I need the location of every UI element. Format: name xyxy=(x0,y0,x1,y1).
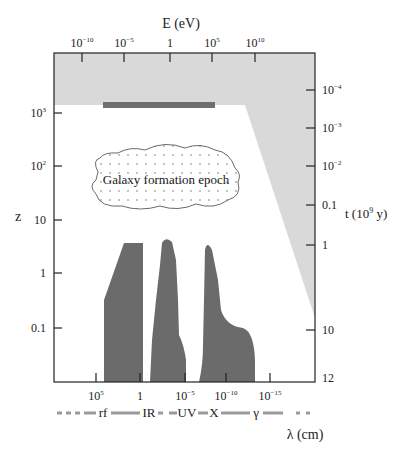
left-axis-title: z xyxy=(15,209,21,224)
window-optical xyxy=(150,239,186,382)
recombination-bar xyxy=(103,102,215,108)
bottom-tick-label: 10−15 xyxy=(259,389,282,403)
band-label-0: rf xyxy=(99,405,108,420)
bottom-tick-label: 105 xyxy=(88,389,104,403)
right-tick-label: 10 xyxy=(322,323,334,337)
band-label-1: IR xyxy=(143,405,156,420)
left-tick-label: 102 xyxy=(31,159,47,173)
diagram: Galaxy formation epoch 10−1010−511051010… xyxy=(0,0,411,459)
bottom-tick-label: 10−5 xyxy=(175,389,195,403)
top-tick-label: 10−10 xyxy=(71,36,94,50)
top-tick-label: 105 xyxy=(204,36,220,50)
galaxy-formation-label: Galaxy formation epoch xyxy=(103,172,230,187)
right-tick-label: 10−2 xyxy=(322,159,342,173)
top-tick-label: 1010 xyxy=(246,36,266,50)
band-label-3: X xyxy=(209,405,219,420)
right-tick-label: 12 xyxy=(322,371,334,385)
left-tick-label: 10 xyxy=(34,213,46,227)
bottom-tick-label: 10−10 xyxy=(215,389,238,403)
right-tick-label: 10−4 xyxy=(322,83,342,97)
bottom-tick-label: 1 xyxy=(137,389,143,403)
top-tick-label: 10−5 xyxy=(114,36,134,50)
left-tick-label: 0.1 xyxy=(31,321,46,335)
window-radio xyxy=(104,243,143,382)
band-label-4: γ xyxy=(252,405,259,420)
top-tick-label: 1 xyxy=(167,36,173,50)
left-tick-label: 103 xyxy=(31,106,47,120)
right-tick-label: 0.1 xyxy=(322,198,337,212)
left-tick-label: 1 xyxy=(40,266,46,280)
right-axis-title: t (109 y) xyxy=(345,206,387,221)
right-tick-label: 10−3 xyxy=(322,121,342,135)
top-axis-title: E (eV) xyxy=(162,16,200,32)
right-tick-label: 1 xyxy=(322,238,328,252)
band-label-2: UV xyxy=(178,405,197,420)
bottom-axis-title: λ (cm) xyxy=(287,427,324,443)
window-xray xyxy=(199,245,255,382)
